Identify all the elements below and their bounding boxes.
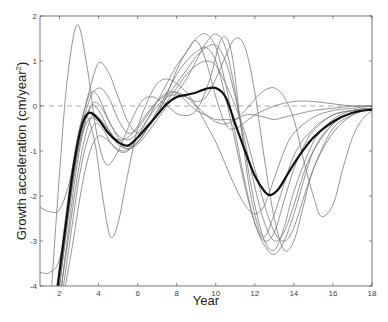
y-axis-title: Growth acceleration (cm/year2) [14, 62, 29, 241]
y-tick-label: 1 [33, 57, 38, 66]
x-tick-label: 16 [328, 289, 337, 298]
y-tick-label: -2 [30, 192, 38, 201]
y-tick-label: -3 [30, 237, 38, 246]
x-tick-label: 14 [289, 289, 298, 298]
y-tick-label: -4 [30, 282, 38, 291]
x-tick-label: 2 [57, 289, 62, 298]
x-tick-label: 8 [174, 289, 179, 298]
growth-acceleration-chart: 24681012141618 -4-3-2-1012 Year Growth a… [0, 0, 388, 322]
y-tick-label: 2 [33, 12, 38, 21]
x-tick-label: 4 [96, 289, 101, 298]
x-tick-label: 18 [368, 289, 377, 298]
y-tick-label: -1 [30, 147, 38, 156]
y-tick-label: 0 [33, 102, 38, 111]
x-tick-label: 6 [135, 289, 140, 298]
x-tick-label: 12 [250, 289, 259, 298]
x-axis-title: Year [193, 293, 220, 308]
